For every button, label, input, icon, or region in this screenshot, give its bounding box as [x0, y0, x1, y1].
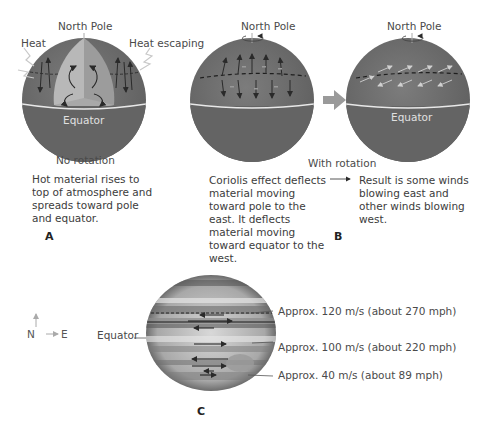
panel-b-description-left: Coriolis effect deflects material moving…	[209, 174, 329, 265]
heat-escaping-label: Heat escaping	[129, 38, 204, 49]
annotation-120: Approx. 120 m/s (about 270 mph)	[278, 306, 456, 317]
transition-arrow	[323, 90, 346, 110]
equator-label-c: Equator	[97, 330, 138, 341]
panel-b-description-right: Result is some winds blowing east and ot…	[359, 174, 477, 226]
jupiter-image	[134, 275, 280, 391]
with-rotation-caption: With rotation	[308, 158, 376, 169]
panel-letter-c: C	[197, 405, 205, 418]
no-rotation-caption: No rotation	[56, 155, 115, 166]
equator-label-a: Equator	[63, 115, 104, 126]
panel-letter-b: B	[334, 230, 342, 243]
compass-east-label: E	[61, 329, 68, 340]
globe-with-rotation-2	[346, 33, 476, 166]
panel-a-description: Hot material rises to top of atmosphere …	[32, 173, 157, 225]
compass-north-label: N	[27, 329, 35, 340]
annotation-100: Approx. 100 m/s (about 220 mph)	[278, 342, 456, 353]
north-pole-label-b2: North Pole	[387, 21, 441, 32]
compass	[36, 314, 58, 334]
heat-label: Heat	[21, 38, 46, 49]
annotation-40: Approx. 40 m/s (about 89 mph)	[278, 370, 443, 381]
globe-with-rotation-1	[190, 33, 320, 166]
equator-label-b2: Equator	[391, 112, 432, 123]
north-pole-label-a: North Pole	[58, 21, 112, 32]
globe-no-rotation	[18, 33, 152, 166]
north-pole-label-b1: North Pole	[241, 21, 295, 32]
panel-letter-a: A	[45, 230, 54, 243]
